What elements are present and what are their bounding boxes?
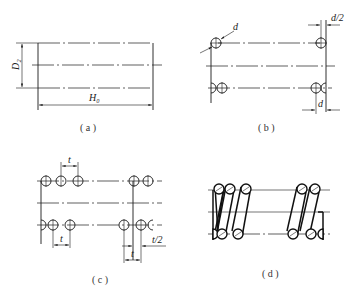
caption-a: ( a ) bbox=[80, 122, 96, 134]
h0-label: H₀ bbox=[88, 92, 100, 103]
panel-d: ( d ) bbox=[208, 184, 330, 280]
caption-c: ( c ) bbox=[92, 274, 108, 286]
d-label: d bbox=[233, 21, 239, 32]
half-d-label: d/2 bbox=[331, 12, 344, 23]
caption-b: ( b ) bbox=[258, 122, 275, 134]
d-arrow bbox=[221, 31, 234, 39]
half-t-label: t/2 bbox=[152, 234, 163, 245]
t-label-top: t bbox=[68, 154, 71, 165]
panel-a: D₂ H₀ ( a ) bbox=[10, 43, 162, 134]
d-arrow bbox=[200, 47, 212, 53]
t-label-bottom: t bbox=[60, 233, 63, 244]
d2-label: D₂ bbox=[10, 59, 21, 71]
bottom-d-label: d bbox=[318, 98, 324, 109]
wire-section bbox=[315, 37, 327, 49]
wire-sections-top bbox=[214, 184, 320, 194]
panel-c: t t t/2 t ( c ) bbox=[37, 154, 166, 286]
panel-b: d d/2 d ( b ) bbox=[200, 12, 344, 134]
caption-d: ( d ) bbox=[262, 268, 279, 280]
t-label-right: t bbox=[131, 248, 134, 259]
